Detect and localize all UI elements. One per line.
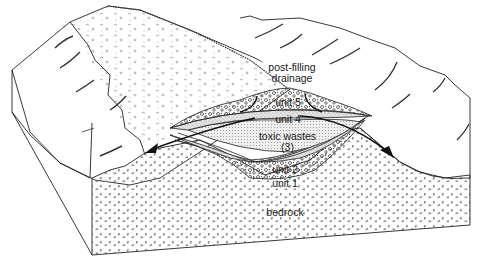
label-toxic-wastes: toxic wastes (3)	[245, 131, 330, 153]
label-unit1: unit 1	[265, 178, 305, 189]
label-toxic-wastes-number: (3)	[245, 142, 330, 153]
label-post-filling-drainage: post-filling drainage	[257, 62, 327, 84]
label-unit5: unit 5	[268, 97, 308, 108]
label-drainage: drainage	[257, 73, 327, 84]
label-unit4: unit 4	[268, 114, 308, 125]
label-bedrock: bedrock	[255, 207, 315, 218]
label-unit2: unit 2	[265, 164, 305, 175]
landfill-block-diagram	[0, 0, 481, 260]
